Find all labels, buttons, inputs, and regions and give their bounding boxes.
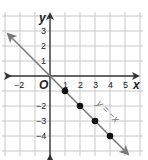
point-4-neg4 [107,133,114,140]
x-tick-label: −2 [14,80,24,90]
line-y-equals-neg-x [8,34,43,69]
x-axis-label: x [132,78,141,92]
x-tick-label: 5 [123,80,128,90]
point-1-neg1 [62,88,69,95]
point-3-neg3 [92,118,99,125]
y-axis-label: y [38,11,47,25]
y-tick-label: −4 [36,131,46,141]
y-tick-label: 3 [41,26,46,36]
x-tick-labels: −2 1 2 3 4 5 [14,80,128,90]
axes [10,14,138,156]
coordinate-graph: x y O −2 1 2 3 4 5 3 2 1 −2 −3 −4 y = −x [0,0,148,160]
x-tick-label: 2 [78,80,83,90]
y-tick-label: −3 [36,116,46,126]
y-tick-label: 1 [41,56,46,66]
y-tick-label: −2 [36,101,46,111]
y-tick-label: 2 [41,41,46,51]
origin-label: O [39,78,49,92]
point-2-neg2 [77,103,84,110]
x-tick-label: 4 [108,80,113,90]
x-tick-label: 3 [93,80,98,90]
